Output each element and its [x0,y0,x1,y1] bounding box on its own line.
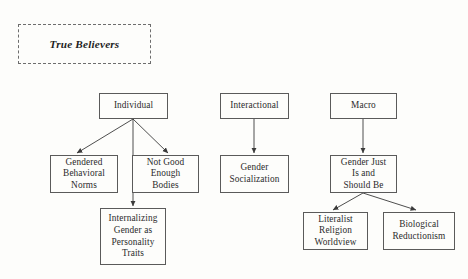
title-box-label: True Believers [50,38,120,50]
node-literalist: LiteralistReligionWorldview [303,212,368,250]
node-individual: Individual [99,93,168,119]
node-interactional: Interactional [220,93,289,119]
node-gendered-norms: GenderedBehavioralNorms [50,155,118,193]
node-label: GenderSocialization [223,162,286,185]
node-label: Individual [102,100,165,112]
node-label: BiologicalReductionism [386,219,452,242]
edge-individual-to-not-good-bodies [133,119,168,153]
node-label: GenderedBehavioralNorms [53,157,115,192]
node-label: Interactional [223,100,286,112]
title-box-true-believers: True Believers [18,24,151,64]
node-label: Macro [333,100,394,112]
node-label: InternalizingGender asPersonalityTraits [103,213,163,259]
edge-individual-to-gendered-norms [77,119,133,153]
node-label: LiteralistReligionWorldview [306,214,365,249]
node-macro: Macro [330,93,397,119]
edge-gender-just-is-to-literalist [333,193,363,210]
node-internalizing: InternalizingGender asPersonalityTraits [100,208,166,265]
node-gender-social: GenderSocialization [220,155,289,193]
node-not-good-bodies: Not GoodEnoughBodies [132,155,199,193]
node-label: Not GoodEnoughBodies [135,157,196,192]
node-biological: BiologicalReductionism [383,212,455,250]
node-label: Gender JustIs andShould Be [333,157,394,192]
edge-gender-just-is-to-biological [363,193,416,210]
diagram-canvas: True Believers IndividualInteractionalMa… [0,0,468,279]
node-gender-just-is: Gender JustIs andShould Be [330,155,397,193]
